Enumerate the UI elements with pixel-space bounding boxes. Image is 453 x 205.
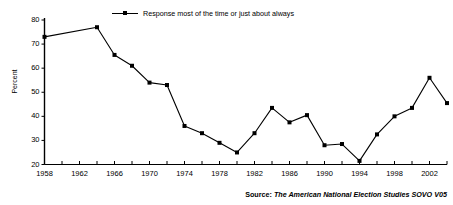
y-tick-label: 60 — [24, 63, 40, 72]
x-tick-label: 1970 — [133, 169, 167, 178]
data-point-marker — [340, 142, 344, 146]
y-tick-label: 40 — [24, 111, 40, 120]
data-point-marker — [113, 53, 117, 57]
data-point-marker — [183, 124, 187, 128]
data-point-marker — [200, 131, 204, 135]
x-tick-label: 1994 — [343, 169, 377, 178]
y-tick-label: 70 — [24, 39, 40, 48]
series-line — [45, 27, 448, 161]
data-point-marker — [305, 113, 309, 117]
data-point-marker — [148, 81, 152, 85]
x-tick-label: 2002 — [413, 169, 447, 178]
source-caption: Source: The American National Election S… — [245, 190, 447, 199]
source-prefix: Source: — [245, 190, 272, 199]
legend-label: Response most of the time or just about … — [143, 9, 294, 18]
y-tick-label: 80 — [24, 15, 40, 24]
data-point-marker — [428, 76, 432, 80]
x-tick-label: 1966 — [98, 169, 132, 178]
data-series-layer — [43, 25, 450, 163]
data-point-marker — [165, 83, 169, 87]
y-axis-title: Percent — [11, 52, 18, 112]
source-text: The American National Election Studies S… — [274, 190, 447, 199]
legend-line-marker-icon — [112, 9, 138, 17]
x-tick-label: 1958 — [28, 169, 62, 178]
x-tick-label: 1986 — [273, 169, 307, 178]
data-point-marker — [375, 132, 379, 136]
data-point-marker — [445, 101, 449, 105]
chart-figure: Response most of the time or just about … — [0, 0, 453, 205]
data-point-marker — [218, 141, 222, 145]
data-point-marker — [95, 25, 99, 29]
data-point-marker — [393, 114, 397, 118]
data-point-marker — [358, 159, 362, 163]
y-tick-label: 20 — [24, 160, 40, 169]
y-tick-label: 30 — [24, 135, 40, 144]
data-point-marker — [288, 120, 292, 124]
data-point-marker — [43, 35, 47, 39]
y-tick-label: 50 — [24, 87, 40, 96]
data-point-marker — [235, 150, 239, 154]
chart-legend: Response most of the time or just about … — [112, 7, 294, 19]
x-tick-label: 1962 — [63, 169, 97, 178]
data-point-marker — [410, 106, 414, 110]
x-tick-label: 1974 — [168, 169, 202, 178]
data-point-marker — [270, 106, 274, 110]
x-tick-label: 1982 — [238, 169, 272, 178]
x-tick-label: 1990 — [308, 169, 342, 178]
x-tick-label: 1998 — [378, 169, 412, 178]
data-point-marker — [323, 143, 327, 147]
data-point-marker — [130, 64, 134, 68]
x-tick-label: 1978 — [203, 169, 237, 178]
data-point-marker — [253, 131, 257, 135]
